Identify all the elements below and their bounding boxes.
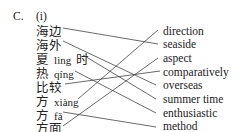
match-line [78, 30, 158, 99]
match-lines [0, 0, 241, 132]
match-line [63, 28, 158, 44]
match-line [63, 112, 156, 127]
match-line [83, 55, 156, 99]
match-line [63, 41, 156, 85]
